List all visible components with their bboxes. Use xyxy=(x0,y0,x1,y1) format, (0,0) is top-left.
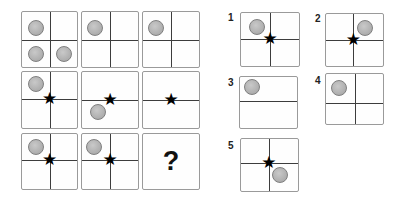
matrix-cell-r2c1: ★ xyxy=(21,71,78,129)
option-label-1: 1 xyxy=(228,12,234,23)
puzzle-canvas: ★★★★★? 1★2★345★ xyxy=(0,0,401,200)
star-icon: ★ xyxy=(102,91,117,108)
subgrid-vertical-line xyxy=(355,74,356,124)
subgrid-horizontal-line xyxy=(326,103,383,104)
circle-icon xyxy=(28,46,44,62)
matrix-cell-r3c3: ? xyxy=(142,133,200,190)
circle-icon xyxy=(148,20,164,36)
circle-icon xyxy=(244,79,260,95)
option-label-4: 4 xyxy=(315,75,321,86)
matrix-cell-r1c1 xyxy=(21,11,78,68)
matrix-cell-r1c2 xyxy=(81,11,139,68)
star-icon: ★ xyxy=(346,31,361,48)
circle-icon xyxy=(90,104,106,120)
option-box-3[interactable] xyxy=(239,76,298,129)
circle-icon xyxy=(272,167,288,183)
star-icon: ★ xyxy=(262,30,277,47)
matrix-cell-r1c3 xyxy=(142,11,200,68)
star-icon: ★ xyxy=(163,91,178,108)
matrix-cell-r3c2: ★ xyxy=(81,133,139,190)
subgrid-horizontal-line xyxy=(143,40,199,41)
star-icon: ★ xyxy=(42,90,57,107)
matrix-cell-r2c2: ★ xyxy=(81,71,139,129)
option-label-5: 5 xyxy=(228,140,234,151)
option-label-3: 3 xyxy=(228,77,234,88)
option-label-2: 2 xyxy=(315,13,321,24)
matrix-cell-r3c1: ★ xyxy=(21,133,78,190)
option-box-4[interactable] xyxy=(325,73,384,125)
circle-icon xyxy=(28,20,44,36)
option-box-5[interactable]: ★ xyxy=(240,138,299,192)
option-box-1[interactable]: ★ xyxy=(240,12,300,67)
circle-icon xyxy=(56,46,72,62)
circle-icon xyxy=(87,20,103,36)
circle-icon xyxy=(331,80,347,96)
star-icon: ★ xyxy=(42,151,57,168)
option-box-2[interactable]: ★ xyxy=(325,13,384,67)
matrix-cell-r2c3: ★ xyxy=(142,71,200,129)
subgrid-horizontal-line xyxy=(82,40,138,41)
subgrid-horizontal-line xyxy=(240,101,297,102)
question-mark: ? xyxy=(163,147,180,174)
circle-icon xyxy=(86,139,102,155)
star-icon: ★ xyxy=(102,151,117,168)
subgrid-horizontal-line xyxy=(22,40,77,41)
